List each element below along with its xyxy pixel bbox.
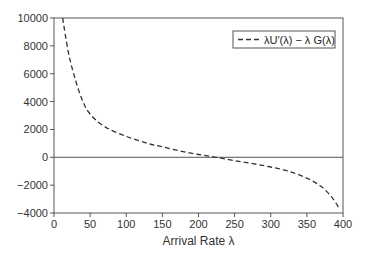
x-tick-label: 150 bbox=[153, 218, 171, 230]
y-tick-label: 6000 bbox=[24, 68, 48, 80]
y-tick-label: −4000 bbox=[17, 207, 48, 219]
x-tick-label: 50 bbox=[84, 218, 96, 230]
chart: −4000−2000020004000600080001000005010015… bbox=[0, 0, 366, 262]
x-tick-label: 100 bbox=[117, 218, 135, 230]
y-tick-label: 10000 bbox=[17, 12, 48, 24]
y-tick-label: −2000 bbox=[17, 179, 48, 191]
x-tick-label: 0 bbox=[51, 218, 57, 230]
y-tick-label: 4000 bbox=[24, 96, 48, 108]
x-tick-label: 400 bbox=[334, 218, 352, 230]
y-tick-label: 0 bbox=[42, 151, 48, 163]
x-tick-label: 250 bbox=[225, 218, 243, 230]
legend-label: λU′(λ) − λ G(λ) bbox=[264, 34, 335, 46]
x-axis-title: Arrival Rate λ bbox=[162, 234, 234, 248]
x-tick-label: 200 bbox=[189, 218, 207, 230]
x-tick-label: 300 bbox=[262, 218, 280, 230]
y-tick-label: 8000 bbox=[24, 40, 48, 52]
x-tick-label: 350 bbox=[298, 218, 316, 230]
y-tick-label: 2000 bbox=[24, 123, 48, 135]
plot-area: −4000−2000020004000600080001000005010015… bbox=[17, 12, 352, 248]
